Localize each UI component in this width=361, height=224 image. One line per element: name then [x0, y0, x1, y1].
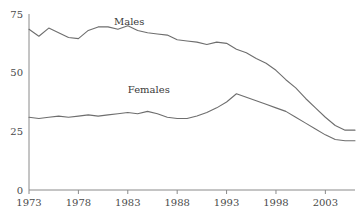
series-line-females — [29, 94, 355, 141]
y-tick-label: 25 — [10, 126, 23, 137]
x-tick-label: 1973 — [16, 197, 41, 208]
x-tick-label: 2003 — [313, 197, 338, 208]
y-tick-label: 50 — [10, 67, 23, 78]
x-axis: 1973197819831988199319982003 — [16, 190, 355, 208]
y-tick-label: 75 — [10, 9, 23, 20]
y-tick-label: 0 — [17, 185, 23, 196]
chart-canvas: 0255075 1973197819831988199319982003 Mal… — [0, 0, 361, 224]
series-label-females: Females — [128, 84, 170, 95]
series-lines — [29, 26, 355, 141]
x-tick-label: 1998 — [263, 197, 288, 208]
line-chart: 0255075 1973197819831988199319982003 Mal… — [0, 0, 361, 224]
y-axis: 0255075 — [10, 9, 29, 196]
x-tick-label: 1988 — [164, 197, 189, 208]
x-tick-label: 1983 — [115, 197, 140, 208]
x-tick-label: 1993 — [214, 197, 239, 208]
x-tick-label: 1978 — [66, 197, 91, 208]
series-label-males: Males — [114, 16, 144, 27]
series-line-males — [29, 26, 355, 130]
